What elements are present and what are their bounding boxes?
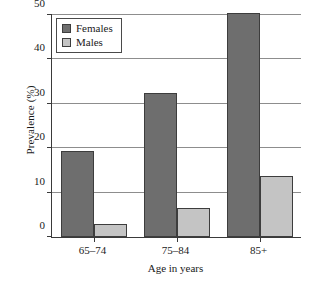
legend-item-females: Females: [62, 22, 113, 35]
chart-legend: Females Males: [56, 18, 122, 53]
bar-males-2: [260, 176, 293, 237]
legend-label-females: Females: [76, 22, 113, 35]
legend-swatch-females-icon: [62, 24, 71, 33]
y-axis-label: 20: [34, 130, 45, 142]
y-axis-tick: [47, 236, 52, 237]
x-axis-title: Age in years: [51, 262, 300, 274]
x-axis-label: 65–74: [79, 244, 107, 256]
x-axis-label: 75–84: [162, 244, 190, 256]
legend-label-males: Males: [76, 36, 103, 49]
y-axis-label: 50: [34, 0, 45, 9]
gridline: [52, 147, 301, 148]
bar-males-1: [177, 208, 210, 237]
y-axis-label: 30: [34, 86, 45, 98]
y-axis-tick: [47, 14, 52, 15]
bar-chart: Prevalence (%) 01020304050 Age in years …: [0, 0, 318, 289]
y-axis-tick: [47, 103, 52, 104]
gridline: [52, 58, 301, 59]
gridline: [52, 14, 301, 15]
x-axis-label: 85+: [250, 244, 267, 256]
y-axis-title: Prevalence (%): [24, 50, 36, 190]
y-axis-tick: [47, 147, 52, 148]
gridline: [52, 103, 301, 104]
y-axis-tick: [47, 58, 52, 59]
bar-females-2: [227, 13, 260, 237]
y-axis-label: 10: [34, 175, 45, 187]
bar-males-0: [94, 224, 127, 237]
bar-females-0: [61, 151, 94, 237]
bar-females-1: [144, 93, 177, 237]
y-axis-label: 40: [34, 41, 45, 53]
x-axis-tick: [177, 237, 178, 242]
legend-item-males: Males: [62, 36, 113, 49]
y-axis-tick: [47, 192, 52, 193]
legend-swatch-males-icon: [62, 38, 71, 47]
y-axis-label: 0: [40, 219, 46, 231]
x-axis-tick: [260, 237, 261, 242]
x-axis-tick: [94, 237, 95, 242]
